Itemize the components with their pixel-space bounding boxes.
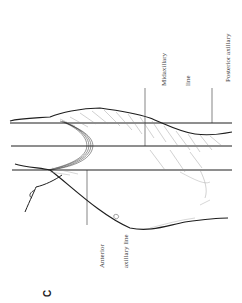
chest-contour bbox=[15, 164, 228, 229]
anterior-label-line2: axillary line bbox=[122, 234, 130, 268]
figure-letter: C bbox=[42, 290, 53, 297]
midaxillary-label-line1: Midaxillary bbox=[160, 53, 168, 86]
midaxillary-label-line2: line bbox=[184, 53, 192, 86]
anterior-axillary-label: Anterior axillary line bbox=[82, 234, 146, 268]
axillary-lines-illustration: Midaxillary line Posterior axillary line… bbox=[0, 0, 242, 303]
anterior-label-line1: Anterior bbox=[98, 234, 106, 268]
nipple-mark bbox=[114, 214, 119, 218]
posterior-axillary-label: Posterior axillary line bbox=[208, 34, 242, 82]
back-contour bbox=[10, 108, 232, 135]
chest-shading bbox=[50, 168, 210, 228]
midaxillary-label: Midaxillary line bbox=[144, 53, 208, 86]
posterior-label-line1: Posterior axillary bbox=[224, 34, 232, 82]
